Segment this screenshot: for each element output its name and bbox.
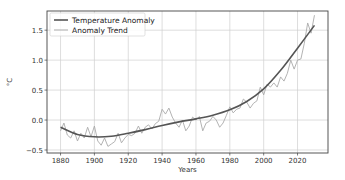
- x-tick-label: 1880: [52, 157, 70, 165]
- legend: Temperature Anomaly Anomaly Trend: [50, 13, 155, 36]
- y-tick-label: 0.0: [32, 117, 43, 125]
- x-tick-label: 1940: [153, 157, 171, 165]
- x-axis-ticks: 18801900192019401960198020002020: [52, 153, 307, 165]
- legend-label-anomaly-trend: Anomaly Trend: [72, 26, 128, 35]
- y-axis-label: °C: [6, 78, 14, 87]
- y-tick-label: 0.5: [32, 87, 43, 95]
- x-tick-label: 1900: [85, 157, 103, 165]
- temperature-anomaly-chart: 18801900192019401960198020002020 −0.50.0…: [0, 0, 345, 180]
- x-tick-label: 1960: [187, 157, 205, 165]
- legend-label-temperature-anomaly: Temperature Anomaly: [71, 16, 155, 25]
- y-axis-ticks: −0.50.00.51.01.5: [26, 27, 47, 155]
- x-tick-label: 1980: [221, 157, 239, 165]
- y-tick-label: 1.5: [32, 27, 43, 35]
- x-tick-label: 2020: [289, 157, 307, 165]
- y-tick-label: −0.5: [26, 147, 43, 155]
- x-tick-label: 1920: [119, 157, 137, 165]
- x-axis-label: Years: [177, 166, 197, 174]
- y-tick-label: 1.0: [32, 57, 43, 65]
- x-tick-label: 2000: [255, 157, 273, 165]
